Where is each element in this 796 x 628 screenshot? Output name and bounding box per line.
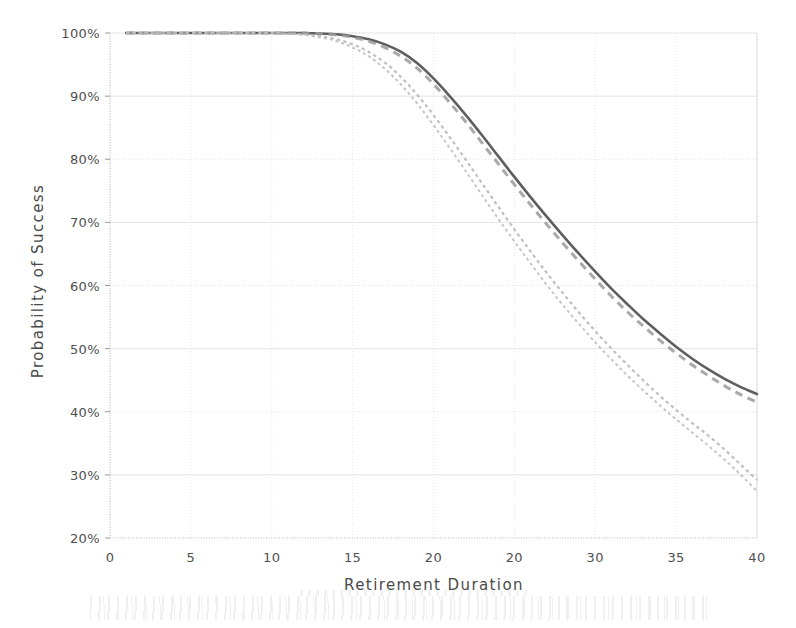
series-line-1 [126, 33, 757, 394]
gridlines [110, 33, 757, 538]
chart-container: Probability of Success Retirement Durati… [0, 0, 796, 628]
plot-area [0, 0, 796, 628]
data-series-layer [126, 33, 757, 491]
series-line-4 [126, 33, 757, 491]
series-line-3 [126, 33, 757, 480]
